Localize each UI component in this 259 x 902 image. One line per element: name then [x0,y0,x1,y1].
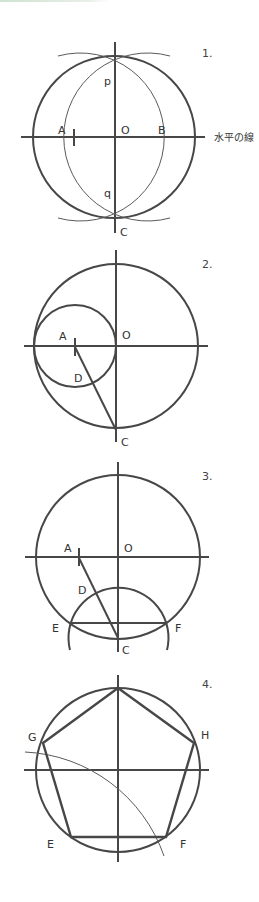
label-g: G [28,731,37,744]
step-4-figure: G H E F 4. [24,675,213,862]
label-c: C [120,226,128,239]
step-number: 1. [202,47,213,60]
step-2-figure: A O D C 2. [24,250,213,449]
line-ac [75,347,116,430]
step-number: 3. [202,470,213,483]
label-p: p [104,75,111,88]
label-c: C [121,436,129,449]
label-a: A [64,542,72,555]
step-1-figure: p q A O B C 1. 水平の線 [21,42,254,239]
arc-centered-f [25,752,164,856]
label-d: D [74,372,82,385]
label-o: O [124,542,133,555]
step-3-figure: A O D E F C 3. [25,462,213,657]
label-f: F [175,622,181,635]
label-h: H [201,729,209,742]
label-e: E [47,838,54,851]
label-b: B [158,124,166,137]
label-o: O [122,329,131,342]
label-o: O [121,124,130,137]
label-f: F [180,838,186,851]
horizontal-line-label: 水平の線 [214,131,254,143]
label-c: C [122,644,130,657]
pentagon-construction-diagram: p q A O B C 1. 水平の線 A O D C 2. A O D E F… [0,0,259,902]
step-number: 2. [202,258,213,271]
label-a: A [59,330,67,343]
label-q: q [104,187,111,200]
line-ac [79,558,118,638]
step-number: 4. [202,678,213,691]
label-e: E [52,622,59,635]
label-d: D [78,584,86,597]
label-a: A [58,124,66,137]
